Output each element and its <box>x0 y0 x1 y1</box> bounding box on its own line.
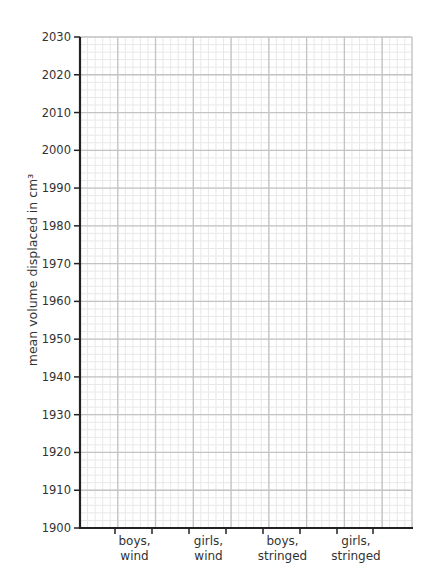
y-tick-label: 1990 <box>42 181 71 195</box>
y-tick-label: 2030 <box>42 30 71 44</box>
y-axis-title: mean volume displaced in cm³ <box>25 174 40 367</box>
y-tick-label: 1900 <box>42 521 71 535</box>
y-tick-label: 1910 <box>42 483 71 497</box>
y-tick-label: 1970 <box>42 257 71 271</box>
y-tick-label: 1980 <box>42 219 71 233</box>
x-category-label: girls,wind <box>194 534 223 563</box>
y-tick-label: 1940 <box>42 370 71 384</box>
y-tick-label: 2020 <box>42 68 71 82</box>
y-tick-label: 1960 <box>42 294 71 308</box>
chart: 1900191019201930194019501960197019801990… <box>0 0 430 585</box>
y-tick-label: 1920 <box>42 445 71 459</box>
x-category-label: boys,wind <box>118 534 150 563</box>
x-category-label: girls,stringed <box>331 534 380 563</box>
y-tick-label: 1930 <box>42 408 71 422</box>
y-axis-ticks: 1900191019201930194019501960197019801990… <box>42 30 80 535</box>
y-tick-label: 2000 <box>42 143 71 157</box>
x-category-label: boys,stringed <box>258 534 307 563</box>
y-tick-label: 2010 <box>42 106 71 120</box>
minor-grid <box>80 37 412 528</box>
y-tick-label: 1950 <box>42 332 71 346</box>
x-axis-ticks: boys,windgirls,windboys,stringedgirls,st… <box>115 528 381 563</box>
